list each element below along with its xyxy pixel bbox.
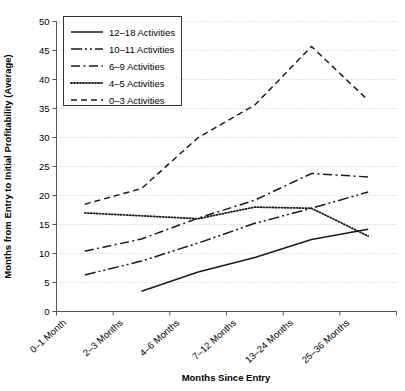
y-tick-label: 0: [44, 306, 49, 317]
y-tick-label: 45: [39, 45, 50, 56]
y-axis-title: Months from Entry to Initial Profitabili…: [2, 54, 13, 279]
y-tick-label: 20: [39, 190, 50, 201]
y-tick-label: 10: [39, 248, 50, 259]
legend-label-2: 6–9 Activities: [109, 61, 165, 72]
legend-label-4: 0–3 Activities: [109, 95, 165, 106]
x-axis-title: Months Since Entry: [182, 372, 271, 383]
legend-label-1: 10–11 Activities: [109, 44, 175, 55]
y-tick-label: 35: [39, 103, 50, 114]
legend: 12–18 Activities10–11 Activities6–9 Acti…: [64, 17, 182, 106]
y-tick-label: 5: [44, 277, 49, 288]
line-chart: 05101520253035404550 0–1 Month2–3 Months…: [0, 0, 405, 391]
legend-label-3: 4–5 Activities: [109, 78, 165, 89]
y-tick-label: 40: [39, 74, 50, 85]
y-tick-label: 30: [39, 132, 50, 143]
y-tick-label: 50: [39, 16, 50, 27]
y-tick-label: 25: [39, 161, 50, 172]
legend-label-0: 12–18 Activities: [109, 27, 175, 38]
y-tick-label: 15: [39, 219, 50, 230]
chart-background: [0, 0, 405, 391]
